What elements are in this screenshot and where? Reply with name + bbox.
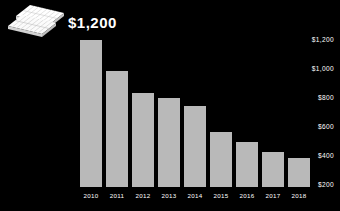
bar-2014 bbox=[184, 106, 206, 187]
y-axis-tick-1000: $1,000 bbox=[274, 66, 334, 73]
bar-2013 bbox=[158, 98, 180, 187]
y-axis-tick-1200: $1,200 bbox=[274, 37, 334, 44]
plot-area: 201020112012201320142015201620172018$1,2… bbox=[0, 0, 340, 211]
y-axis-tick-800: $800 bbox=[274, 95, 334, 102]
y-axis-tick-600: $600 bbox=[274, 124, 334, 131]
bar-2010 bbox=[80, 40, 102, 187]
bar-2015 bbox=[210, 132, 232, 187]
x-axis-label-2016: 2016 bbox=[234, 193, 260, 199]
x-axis-label-2011: 2011 bbox=[104, 193, 130, 199]
bar-2012 bbox=[132, 93, 154, 187]
y-axis-tick-400: $400 bbox=[274, 153, 334, 160]
x-axis-label-2010: 2010 bbox=[78, 193, 104, 199]
x-axis-label-2015: 2015 bbox=[208, 193, 234, 199]
x-axis-label-2018: 2018 bbox=[286, 193, 312, 199]
bar-2016 bbox=[236, 142, 258, 187]
x-axis-label-2012: 2012 bbox=[130, 193, 156, 199]
chart-container: $1,200 201020112012201320142015201620172… bbox=[0, 0, 340, 211]
y-axis-tick-200: $200 bbox=[274, 182, 334, 189]
bar-2011 bbox=[106, 71, 128, 187]
x-axis-label-2017: 2017 bbox=[260, 193, 286, 199]
x-axis-label-2014: 2014 bbox=[182, 193, 208, 199]
x-axis-label-2013: 2013 bbox=[156, 193, 182, 199]
